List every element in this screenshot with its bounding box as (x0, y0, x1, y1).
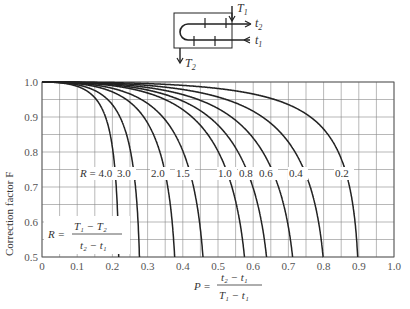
svg-text:0.6: 0.6 (246, 260, 260, 272)
svg-text:0.7: 0.7 (24, 181, 38, 193)
curve-label: R = 4.0 (79, 167, 113, 179)
svg-text:T1: T1 (237, 1, 248, 17)
curve-labels: R = 4.03.02.01.51.00.80.60.40.2 (79, 167, 354, 180)
svg-text:1.0: 1.0 (24, 76, 38, 88)
svg-text:0.4: 0.4 (176, 260, 190, 272)
svg-text:0.9: 0.9 (24, 111, 38, 123)
svg-text:0.6: 0.6 (24, 216, 38, 228)
svg-text:0.1: 0.1 (70, 260, 84, 272)
svg-text:1.0: 1.0 (387, 260, 401, 272)
x-axis-label: P = t₂ − t₁ T₁ − t₁ (193, 271, 262, 301)
svg-text:0: 0 (39, 260, 45, 272)
svg-text:0.7: 0.7 (282, 260, 296, 272)
curve-label: 3.0 (117, 167, 131, 179)
curve-label: 0.4 (289, 167, 303, 179)
correction-factor-chart: T1 t2 t1 T2 00.10.20.30.40.50.60.70.80.9… (0, 0, 410, 309)
svg-text:t₂ − t₁: t₂ − t₁ (80, 239, 107, 251)
svg-text:0.9: 0.9 (352, 260, 366, 272)
curve-label: 0.6 (259, 167, 273, 179)
curve-label: 2.0 (151, 167, 165, 179)
svg-text:P =: P = (193, 280, 211, 292)
svg-text:T₁ − t₁: T₁ − t₁ (219, 289, 249, 301)
svg-text:t1: t1 (255, 33, 262, 49)
y-axis-label: Correction factor F (3, 172, 15, 256)
svg-text:0.5: 0.5 (24, 251, 38, 263)
svg-text:0.8: 0.8 (317, 260, 331, 272)
svg-text:0.8: 0.8 (24, 146, 38, 158)
svg-text:0.3: 0.3 (141, 260, 155, 272)
svg-text:t2: t2 (255, 16, 262, 32)
svg-text:0.2: 0.2 (106, 260, 120, 272)
curve-label: 1.5 (176, 167, 190, 179)
curve-label: 0.8 (239, 167, 253, 179)
svg-text:T₁ − T₂: T₁ − T₂ (74, 220, 107, 232)
curve-label: 1.0 (218, 167, 232, 179)
svg-text:R =: R = (47, 228, 65, 240)
diagram-labels: T1 t2 t1 T2 (185, 1, 262, 72)
svg-text:t₂ − t₁: t₂ − t₁ (221, 271, 248, 283)
svg-text:T2: T2 (185, 56, 196, 72)
curve-label: 0.2 (335, 167, 349, 179)
